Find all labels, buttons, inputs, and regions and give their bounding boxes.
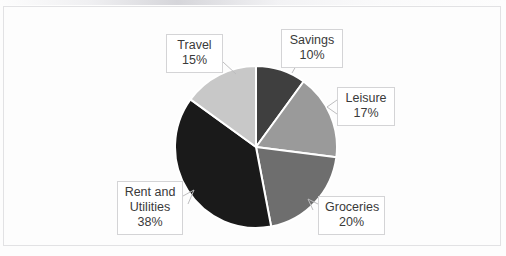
slice-label-savings-text: Savings [288,33,336,48]
slice-label-groceries-text: Groceries [325,200,378,215]
slice-label-travel-percent: 15% [173,53,216,68]
slice-label-leisure: Leisure 17% [337,87,395,126]
slice-label-travel-text: Travel [173,38,216,53]
slice-label-savings-percent: 10% [288,48,336,63]
slice-label-rent-line1: Rent and [124,185,176,200]
slice-label-leisure-text: Leisure [344,91,388,106]
slice-label-groceries-percent: 20% [325,215,378,230]
slice-label-rent-and-utilities: Rent and Utilities 38% [117,181,183,235]
pie-svg [174,65,338,229]
slice-label-travel: Travel 15% [166,34,223,73]
slice-label-savings: Savings 10% [281,29,343,68]
pie-chart-screenshot: Travel 15% Savings 10% Leisure 17% Groce… [0,0,506,256]
slice-label-rent-percent: 38% [124,215,176,230]
pie-chart [0,0,506,256]
slice-label-groceries: Groceries 20% [318,196,385,235]
slice-label-rent-line2: Utilities [124,200,176,215]
slice-label-leisure-percent: 17% [344,106,388,121]
